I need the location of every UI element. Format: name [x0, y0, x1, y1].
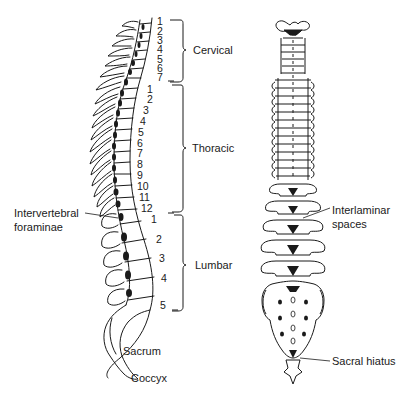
intervertebral-foraminae-label-line2: foraminae: [14, 221, 63, 234]
posterior-coccyx: [284, 360, 302, 384]
coccyx-label: Coccyx: [131, 372, 167, 385]
posterior-sacrum: [262, 281, 324, 358]
intervertebral-foraminae-label-line1: Intervertebral: [14, 207, 79, 220]
region-brackets: [168, 20, 186, 311]
thoracic-bracket: [172, 85, 186, 212]
lumbar-number-5: 5: [160, 300, 166, 311]
lumbar-number-1: 1: [151, 214, 157, 225]
lumbar-number-2: 2: [156, 234, 162, 245]
lumbar-label: Lumbar: [195, 259, 232, 272]
spine-illustration: [0, 0, 411, 394]
cervical-bracket: [170, 20, 186, 82]
interlaminar-spaces-label-line2: spaces: [332, 218, 367, 231]
lumbar-number-3: 3: [159, 253, 165, 264]
cervical-label: Cervical: [193, 44, 233, 57]
thoracic-label: Thoracic: [192, 142, 234, 155]
interlaminar-spaces-label-line1: Interlaminar: [332, 204, 390, 217]
spinous-processes: [90, 21, 138, 217]
sacrum-label: Sacrum: [123, 345, 161, 358]
posterior-segments: [272, 38, 314, 180]
sacral-hiatus-label: Sacral hiatus: [332, 355, 396, 368]
lumbar-number-4: 4: [161, 273, 167, 284]
cervical-number-7: 7: [157, 72, 163, 83]
posterior-spine: [261, 21, 325, 384]
lumbar-bracket: [172, 215, 186, 311]
